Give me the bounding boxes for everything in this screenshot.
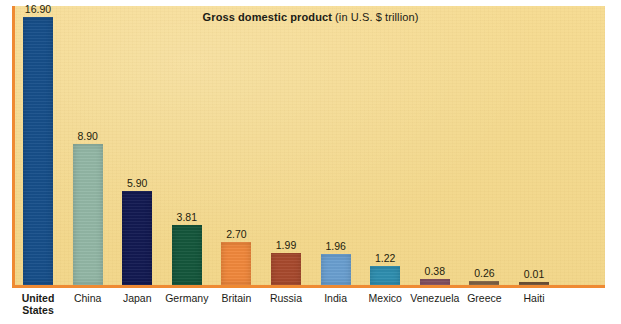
bar-value-label: 0.26 [461, 267, 507, 279]
bar-greece: 0.26 [461, 6, 507, 285]
bar-value-label: 8.90 [65, 130, 111, 142]
bar-britain: 2.70 [213, 6, 259, 285]
bars-layer: 16.908.905.903.812.701.991.961.220.380.2… [15, 6, 605, 285]
bar-value-label: 1.22 [362, 252, 408, 264]
category-label-haiti: Haiti [499, 292, 569, 304]
bar-value-label: 5.90 [114, 177, 160, 189]
bar-value-label: 16.90 [15, 3, 61, 15]
bar-rect [321, 254, 351, 285]
bar-value-label: 2.70 [213, 228, 259, 240]
bar-rect [172, 225, 202, 285]
bar-rect [271, 253, 301, 285]
bar-mexico: 1.22 [362, 6, 408, 285]
bar-rect [221, 242, 251, 285]
bar-india: 1.96 [313, 6, 359, 285]
bar-rect [370, 266, 400, 285]
bar-germany: 3.81 [164, 6, 210, 285]
bar-value-label: 3.81 [164, 211, 210, 223]
bar-rect [73, 144, 103, 285]
gdp-bar-chart: Gross domestic product (in U.S. $ trilli… [0, 0, 621, 324]
bar-united-states: 16.90 [15, 6, 61, 285]
bar-rect [469, 281, 499, 285]
bar-value-label: 1.96 [313, 240, 359, 252]
x-axis-line [12, 285, 605, 288]
bar-rect [122, 191, 152, 285]
bar-japan: 5.90 [114, 6, 160, 285]
bar-russia: 1.99 [263, 6, 309, 285]
bar-rect [519, 282, 549, 285]
bar-haiti: 0.01 [511, 6, 557, 285]
bar-venezuela: 0.38 [412, 6, 458, 285]
bar-rect [23, 17, 53, 285]
bar-china: 8.90 [65, 6, 111, 285]
bar-value-label: 1.99 [263, 239, 309, 251]
category-labels: United StatesChinaJapanGermanyBritainRus… [15, 292, 605, 324]
bar-value-label: 0.01 [511, 268, 557, 280]
bar-value-label: 0.38 [412, 265, 458, 277]
bar-rect [420, 279, 450, 285]
